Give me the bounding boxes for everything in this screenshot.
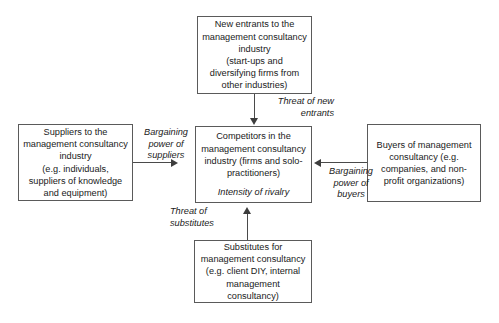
label-bargaining-power-of-suppliers: Bargaining power of suppliers — [133, 127, 199, 162]
five-forces-diagram: New entrants to the management consultan… — [0, 0, 499, 323]
connector-buyers — [320, 162, 367, 163]
box-substitutes-text: Substitutes for management consultancy (… — [201, 241, 306, 302]
box-new-entrants: New entrants to the management consultan… — [197, 16, 312, 94]
label-bargaining-power-of-buyers: Bargaining power of buyers — [318, 166, 384, 201]
label-threat-of-new-entrants: Threat of new entrants — [260, 96, 334, 119]
box-buyers-text: Buyers of management consultancy (e.g. c… — [377, 139, 472, 188]
arrowhead-down-icon — [250, 118, 258, 125]
connector-substitutes — [247, 213, 248, 240]
label-threat-of-substitutes: Threat of substitutes — [170, 206, 242, 229]
box-suppliers: Suppliers to the management consultancy … — [18, 124, 133, 201]
box-substitutes: Substitutes for management consultancy (… — [194, 240, 312, 303]
box-suppliers-text: Suppliers to the management consultancy … — [23, 126, 128, 199]
arrowhead-up-icon — [243, 207, 251, 214]
box-competitors-text: Competitors in the management consultanc… — [201, 130, 306, 179]
box-buyers: Buyers of management consultancy (e.g. c… — [367, 124, 481, 202]
box-competitors: Competitors in the management consultanc… — [195, 126, 312, 203]
connector-suppliers — [133, 162, 172, 163]
connector-new-entrants — [254, 94, 255, 119]
box-competitors-subtext: Intensity of rivalry — [218, 186, 289, 198]
box-new-entrants-text: New entrants to the management consultan… — [202, 18, 307, 91]
